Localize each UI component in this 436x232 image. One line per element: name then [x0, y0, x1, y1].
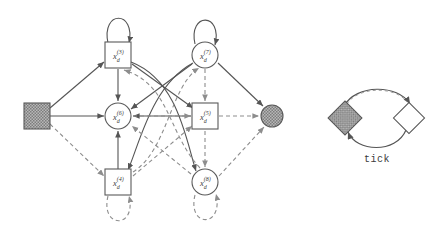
node-label-sup: (6) [117, 110, 124, 117]
node-label-sup: (4) [117, 176, 124, 183]
node-shape [24, 103, 50, 129]
self-loop-n8 [194, 194, 217, 220]
edge-n8-sink [219, 127, 264, 176]
legend-node-to [393, 102, 424, 133]
node-n5[interactable]: xd(5) [192, 103, 218, 129]
node-label-sup: (3) [117, 49, 124, 56]
node-label-sup: (5) [204, 110, 211, 117]
self-loop-n3 [107, 18, 130, 43]
node-shape [192, 103, 218, 129]
node-shape [261, 105, 283, 127]
legend-arrow-top [344, 89, 410, 106]
graph-svg: xd(3)xd(6)xd(4)xd(7)xd(5)xd(8) tick [0, 0, 436, 232]
node-layer: xd(3)xd(6)xd(4)xd(7)xd(5)xd(8) [24, 42, 283, 195]
node-sink[interactable] [261, 105, 283, 127]
legend-label: tick [364, 154, 390, 165]
edge-n8-n6 [132, 126, 191, 174]
edge-n7-sink [218, 63, 263, 106]
legend-arrow-top-dashed [347, 90, 407, 104]
node-n4[interactable]: xd(4) [105, 169, 131, 195]
edge-layer-dashed [50, 68, 264, 221]
node-shape [105, 169, 131, 195]
node-n8[interactable]: xd(8) [192, 169, 218, 195]
edge-layer-solid [50, 18, 263, 171]
edge-src-n4 [50, 124, 104, 176]
legend-node-from [328, 101, 362, 135]
node-shape [105, 103, 131, 129]
node-n7[interactable]: xd(7) [192, 42, 218, 68]
node-label-sup: (7) [204, 49, 211, 56]
diagram-canvas: xd(3)xd(6)xd(4)xd(7)xd(5)xd(8) tick [0, 0, 436, 232]
node-src[interactable] [24, 103, 50, 129]
edge-src-n3 [50, 62, 104, 108]
node-shape [192, 42, 218, 68]
node-n6[interactable]: xd(6) [105, 103, 131, 129]
node-n3[interactable]: xd(3) [105, 42, 131, 68]
legend: tick [328, 89, 425, 165]
self-loop-n7 [194, 20, 216, 45]
node-shape [105, 42, 131, 68]
node-shape [192, 169, 218, 195]
self-loop-n4 [107, 196, 130, 221]
node-label-sup: (8) [204, 176, 211, 183]
legend-arrow-bottom [348, 130, 406, 148]
